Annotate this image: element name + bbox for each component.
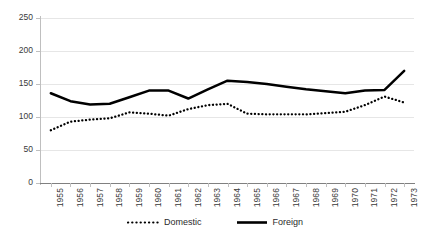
solid-line-swatch (236, 218, 268, 227)
line-chart: 050100150200250 195519561957195819591960… (0, 0, 430, 237)
legend-label-domestic: Domestic (164, 218, 202, 227)
legend-item-foreign: Foreign (236, 218, 304, 227)
chart-legend: Domestic Foreign (0, 218, 430, 227)
series-line-foreign (51, 71, 404, 105)
series-line-domestic (51, 97, 404, 131)
legend-label-foreign: Foreign (273, 218, 304, 227)
legend-item-domestic: Domestic (127, 218, 202, 227)
dotted-line-swatch (127, 218, 159, 227)
series-layer (0, 0, 430, 237)
